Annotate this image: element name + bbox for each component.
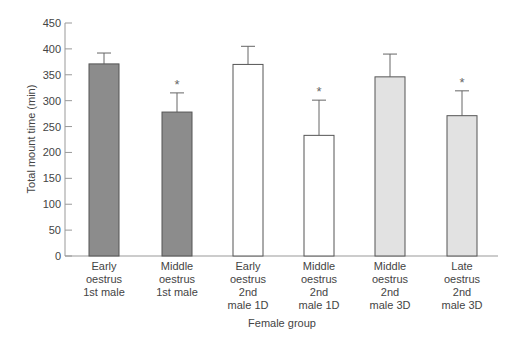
x-tick-label: oestrus: [86, 273, 123, 285]
x-tick-label: 1st male: [156, 286, 198, 298]
x-tick-label: Early: [235, 260, 261, 272]
bars: ***: [89, 46, 477, 256]
bar-chart: 050100150200250300350400450 *** Earlyoes…: [0, 0, 524, 337]
y-tick-label: 50: [49, 224, 61, 236]
x-axis-labels: Earlyoestrus1st maleMiddleoestrus1st mal…: [83, 260, 482, 311]
x-tick-label: oestrus: [230, 273, 267, 285]
x-tick-label: oestrus: [372, 273, 409, 285]
y-tick-label: 350: [43, 69, 61, 81]
y-tick-label: 300: [43, 95, 61, 107]
y-tick-label: 200: [43, 146, 61, 158]
x-tick-label: Early: [91, 260, 117, 272]
x-tick-label: male 3D: [370, 299, 411, 311]
y-tick-label: 150: [43, 172, 61, 184]
significance-marker: *: [174, 77, 179, 92]
bar: [304, 135, 334, 256]
x-tick-label: Late: [451, 260, 472, 272]
x-tick-label: male 1D: [228, 299, 269, 311]
x-tick-label: oestrus: [159, 273, 196, 285]
x-tick-label: oestrus: [301, 273, 338, 285]
bar: [233, 64, 263, 256]
x-tick-label: Middle: [303, 260, 335, 272]
bar: [447, 116, 477, 256]
y-tick-label: 450: [43, 17, 61, 29]
y-tick-label: 100: [43, 198, 61, 210]
x-tick-label: 2nd: [239, 286, 257, 298]
x-tick-label: oestrus: [444, 273, 481, 285]
bar: [162, 112, 192, 256]
x-tick-label: 1st male: [83, 286, 125, 298]
significance-marker: *: [459, 75, 464, 90]
y-axis-label: Total mount time (min): [25, 85, 37, 194]
bar: [375, 77, 405, 256]
bar: [89, 64, 119, 256]
significance-marker: *: [316, 84, 321, 99]
x-tick-label: Middle: [374, 260, 406, 272]
x-tick-label: Middle: [161, 260, 193, 272]
y-tick-label: 0: [55, 250, 61, 262]
x-tick-label: male 3D: [442, 299, 483, 311]
x-tick-label: 2nd: [381, 286, 399, 298]
y-tick-label: 400: [43, 43, 61, 55]
x-tick-label: 2nd: [310, 286, 328, 298]
y-tick-label: 250: [43, 121, 61, 133]
x-tick-label: male 1D: [299, 299, 340, 311]
x-tick-label: 2nd: [453, 286, 471, 298]
x-axis-label: Female group: [248, 317, 316, 329]
